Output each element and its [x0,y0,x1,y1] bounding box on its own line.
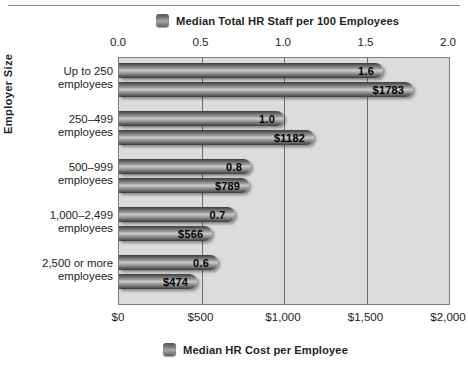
legend-swatch-icon [163,343,176,356]
top-tick-0: 0.0 [110,35,126,48]
bar-cost-value-3: $566 [178,228,203,240]
bar-staff-3[interactable]: 0.7 [119,207,235,222]
top-tick-2: 1.0 [275,35,291,48]
category-label-line1-4: 2,500 or more [5,257,113,270]
legend-top: Median Total HR Staff per 100 Employees [156,14,399,27]
bar-cost-3[interactable]: $566 [119,226,212,241]
bar-cost-1[interactable]: $1182 [119,130,314,145]
bar-staff-1[interactable]: 1.0 [119,111,284,126]
bar-cost-value-1: $1182 [274,132,305,144]
category-label-line2-2: employees [5,174,113,187]
category-label-line2-1: employees [5,126,113,139]
bar-staff-4[interactable]: 0.6 [119,255,218,270]
bottom-axis-ticks: $0$500$1,000$1,500$2,000 [0,310,468,326]
bar-cost-value-4: $474 [163,276,188,288]
category-label-1: 250–499employees [5,113,113,139]
bottom-tick-0: $0 [112,310,125,323]
category-label-line1-0: Up to 250 [5,65,113,78]
bar-cost-value-0: $1783 [373,84,405,96]
legend-top-label: Median Total HR Staff per 100 Employees [176,15,399,27]
bar-cost-0[interactable]: $1783 [119,82,413,97]
category-label-3: 1,000–2,499employees [5,209,113,235]
category-label-2: 500–999employees [5,161,113,187]
bar-staff-value-3: 0.7 [210,209,226,221]
legend-bottom: Median HR Cost per Employee [163,343,348,356]
category-label-4: 2,500 or moreemployees [5,257,113,283]
legend-swatch-icon [156,14,169,27]
bar-cost-2[interactable]: $789 [119,178,249,193]
bar-cost-4[interactable]: $474 [119,274,197,289]
category-label-line1-1: 250–499 [5,113,113,126]
bar-cost-value-2: $789 [215,180,240,192]
bar-staff-value-1: 1.0 [259,113,275,125]
category-labels: Up to 250employees250–499employees500–99… [0,57,113,305]
category-label-line2-4: employees [5,270,113,283]
bottom-tick-4: $2,000 [430,310,465,323]
bottom-tick-3: $1,500 [348,310,383,323]
plot-area: 1.6$17831.0$11820.8$7890.7$5660.6$474 [118,57,450,305]
bar-staff-value-0: 1.6 [358,65,374,77]
bar-staff-0[interactable]: 1.6 [119,63,383,78]
top-tick-3: 1.5 [357,35,373,48]
legend-bottom-label: Median HR Cost per Employee [183,344,348,356]
category-label-line1-2: 500–999 [5,161,113,174]
category-label-0: Up to 250employees [5,65,113,91]
top-axis-ticks: 0.00.51.01.52.0 [0,35,468,51]
top-tick-4: 2.0 [440,35,456,48]
bar-staff-value-4: 0.6 [193,257,209,269]
bar-staff-2[interactable]: 0.8 [119,159,251,174]
category-label-line2-3: employees [5,222,113,235]
category-label-line1-3: 1,000–2,499 [5,209,113,222]
top-divider-rule [8,5,460,6]
bottom-tick-1: $500 [188,310,214,323]
top-tick-1: 0.5 [192,35,208,48]
bottom-tick-2: $1,000 [265,310,300,323]
chart-root: Median Total HR Staff per 100 Employees … [0,0,468,367]
bar-staff-value-2: 0.8 [226,161,242,173]
category-label-line2-0: employees [5,78,113,91]
